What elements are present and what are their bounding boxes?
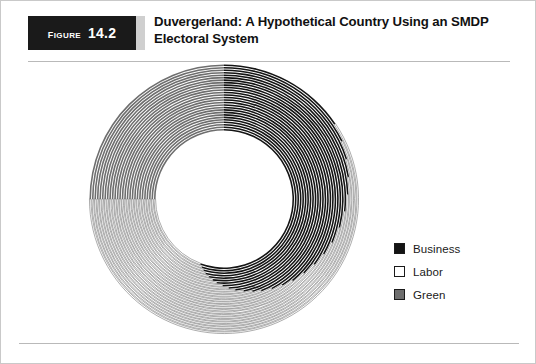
legend-label-labor: Labor [413,266,443,278]
footer-divider [19,343,519,344]
legend-item-business: Business [394,237,504,260]
ring-chart-svg [1,1,536,364]
ring-segment [137,112,224,199]
green-swatch [394,289,405,300]
legend-label-business: Business [413,243,460,255]
ring-segment [147,122,224,199]
legend-label-green: Green [413,289,445,301]
figure-page: Figure 14.2 Duvergerland: A Hypothetical… [0,0,536,364]
chart-legend: Business Labor Green [394,237,504,306]
legend-item-labor: Labor [394,260,504,283]
ring-segment [149,124,224,199]
ring-segment [205,122,301,277]
business-swatch [394,243,405,254]
ring-segment [99,74,224,199]
legend-item-green: Green [394,283,504,306]
ring-segment [134,109,224,199]
labor-swatch [394,266,405,277]
ring-segment [203,124,299,274]
ring-chart [1,1,536,364]
